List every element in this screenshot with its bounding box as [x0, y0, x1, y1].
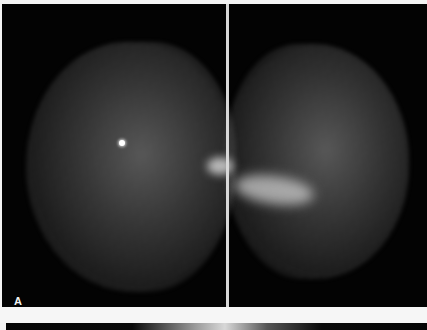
panel-label: A: [14, 296, 22, 307]
density-left: [207, 157, 233, 175]
panel-divider: [226, 4, 229, 307]
tissue-texture: [224, 44, 409, 279]
next-figure-panel: [6, 323, 427, 330]
left-breast-view: [26, 42, 236, 292]
tissue-texture: [26, 42, 236, 292]
figure-panel-a: [2, 4, 427, 307]
right-breast-view: [224, 44, 409, 279]
calcification-spot: [119, 140, 125, 146]
panel-gap: [0, 307, 427, 323]
